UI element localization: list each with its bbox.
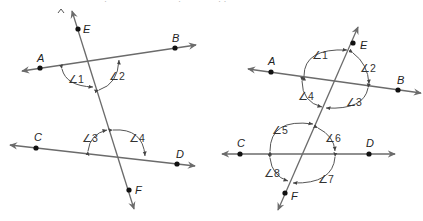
left-point-c — [33, 145, 38, 150]
left-transversal-ef — [72, 11, 134, 209]
left-figure: A B C D E F ∠1 ∠2 ∠3 ∠4 — [10, 9, 196, 209]
right-point-e — [350, 40, 355, 45]
right-figure: A B C D E F ∠1 ∠2 ∠3 ∠4 ∠5 ∠6 ∠7 ∠8 — [222, 27, 421, 210]
left-point-a — [37, 65, 42, 70]
cropped-header-text: · · · · — [104, 0, 227, 6]
right-point-f — [282, 190, 287, 195]
svg-text:· ·: · · — [218, 0, 227, 6]
left-stray-mark — [58, 9, 64, 13]
left-label-b: B — [172, 32, 179, 44]
right-angle-5-label: ∠5 — [272, 124, 288, 136]
left-angle-4-label: ∠4 — [129, 132, 145, 144]
left-point-e — [75, 26, 80, 31]
left-label-f: F — [135, 184, 143, 196]
right-label-c: C — [237, 137, 245, 149]
left-point-d — [174, 161, 179, 166]
left-angle-3-label: ∠3 — [82, 132, 98, 144]
right-label-b: B — [397, 74, 404, 86]
right-point-a — [268, 69, 273, 74]
right-label-e: E — [360, 39, 368, 51]
svg-text:·: · — [178, 0, 181, 6]
left-line-ab — [22, 45, 196, 71]
right-angle-6-label: ∠6 — [325, 132, 341, 144]
right-label-a: A — [267, 55, 275, 67]
right-angle-2-label: ∠2 — [360, 62, 376, 74]
right-angle-4-label: ∠4 — [298, 90, 314, 102]
right-label-f: F — [291, 190, 299, 202]
right-angle-8-label: ∠8 — [264, 167, 280, 179]
left-label-e: E — [83, 23, 91, 35]
left-label-d: D — [176, 148, 184, 160]
right-angle-7-label: ∠7 — [318, 173, 334, 185]
svg-text:·: · — [104, 0, 107, 6]
right-point-d — [366, 151, 371, 156]
left-point-b — [172, 45, 177, 50]
diagram-canvas: · · · · A B C D E F ∠1 ∠2 ∠3 — [0, 0, 423, 221]
right-angle-3-label: ∠3 — [346, 96, 362, 108]
right-label-d: D — [366, 137, 374, 149]
left-angle-1-label: ∠1 — [68, 73, 84, 85]
right-point-c — [237, 151, 242, 156]
left-point-f — [126, 187, 131, 192]
right-point-b — [395, 87, 400, 92]
right-angle-1-label: ∠1 — [312, 49, 328, 61]
left-label-a: A — [36, 52, 44, 64]
left-angle-2-label: ∠2 — [109, 70, 125, 82]
left-label-c: C — [34, 131, 42, 143]
